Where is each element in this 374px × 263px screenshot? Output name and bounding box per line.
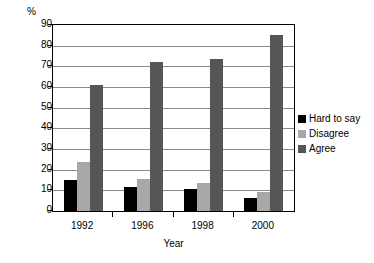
y-axis-tick-label: 40	[6, 122, 52, 132]
y-axis-tick-label: 10	[6, 184, 52, 194]
x-axis-tick-label: 1998	[183, 220, 223, 231]
x-axis-title: Year	[52, 238, 295, 249]
y-axis-ticks: 0102030405060708090	[0, 24, 52, 212]
bar-chart: % 0102030405060708090 1992199619982000 Y…	[0, 0, 374, 263]
x-axis-tick-label: 1996	[122, 220, 162, 231]
bar	[197, 183, 210, 211]
legend-swatch-icon	[298, 115, 306, 123]
y-axis-tick-label: 70	[6, 60, 52, 70]
legend-label: Hard to say	[309, 113, 360, 124]
bar	[257, 192, 270, 211]
y-axis-tick-label: 0	[6, 205, 52, 215]
legend-label: Agree	[309, 143, 336, 154]
x-axis-ticks	[52, 212, 295, 218]
bar	[270, 35, 283, 211]
bar	[137, 179, 150, 211]
legend-swatch-icon	[298, 130, 306, 138]
legend-item: Agree	[298, 141, 372, 156]
bars-layer	[53, 25, 294, 211]
y-axis-tick-label: 60	[6, 81, 52, 91]
legend-swatch-icon	[298, 145, 306, 153]
legend-item: Hard to say	[298, 111, 372, 126]
bar	[64, 180, 77, 211]
bar	[184, 189, 197, 211]
legend-item: Disagree	[298, 126, 372, 141]
x-axis-tick-label: 1992	[62, 220, 102, 231]
bar	[77, 162, 90, 211]
y-axis-tick-label: 30	[6, 143, 52, 153]
chart-legend: Hard to sayDisagreeAgree	[298, 111, 372, 156]
y-axis-tick-label: 20	[6, 164, 52, 174]
y-axis-tick-label: 50	[6, 102, 52, 112]
x-axis-tick-label: 2000	[243, 220, 283, 231]
bar	[150, 62, 163, 211]
plot-area	[52, 24, 295, 212]
bar	[90, 85, 103, 211]
y-axis-tick-label: 80	[6, 40, 52, 50]
legend-label: Disagree	[309, 128, 349, 139]
bar	[124, 187, 137, 211]
x-axis-tick-mark	[233, 212, 234, 217]
bar	[210, 59, 223, 211]
x-axis-tick-mark	[173, 212, 174, 217]
y-axis-tick-label: 90	[6, 19, 52, 29]
y-axis-unit-label: %	[27, 6, 36, 18]
bar	[244, 198, 257, 211]
x-axis-tick-mark	[112, 212, 113, 217]
